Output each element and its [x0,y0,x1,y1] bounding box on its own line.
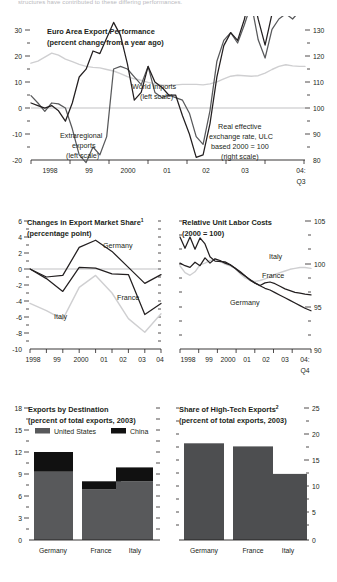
ytick-1: 15 [14,427,22,434]
ytick-8: -10 [12,346,22,353]
xtick-marks [180,349,311,353]
ytick-0: 6 [18,218,22,225]
annotation-germany: Germany [103,241,133,250]
bar-italy [269,474,307,540]
chart-subtitle: (percent of total exports, 2003) [179,416,287,425]
xtick-5: 03 [281,356,289,363]
ytick-right-0: 130 [313,27,325,34]
ytick-marks-right [156,408,160,529]
xtick-5: 03 [241,167,249,174]
annotation-germany: Germany [230,298,260,307]
ytick-left-2: 10 [14,79,22,86]
legend-label-china: China [130,428,148,435]
bar-france-china [82,481,121,489]
series-line-germany [30,240,161,283]
ytick-left-1: 20 [14,53,22,60]
ytick-right-3: 100 [313,105,325,112]
ytick-right-5: 80 [313,157,321,164]
ytick-3: 90 [314,347,322,354]
ytick-marks-left [24,221,29,341]
ytick-1: 100 [314,261,326,268]
ytick-1: 4 [18,234,22,241]
chart-title: Relative Unit Labor Costs [182,218,272,227]
xtick-1: 99 [53,356,61,363]
xtick-6: 04: [300,356,310,363]
ytick-3: 9 [18,471,22,478]
legend-swatch-china [111,428,126,434]
bar-france-united-states [82,489,121,540]
chart-subtitle: (percentage point) [27,229,92,238]
xtick-5: 03 [138,356,146,363]
ytick-5: 0 [312,537,316,544]
xtick-2: 2000 [220,356,235,363]
xtick-6: 04 [156,356,164,363]
xtick-italy: Italy [129,547,142,555]
ytick-5: 3 [18,515,22,522]
series-line-reer [31,53,305,85]
xtick-france: France [242,547,263,554]
xtick-4: 02 [262,356,270,363]
chart-export-market-share: Changes in Export Market Share1 (percent… [0,205,172,390]
ytick-6: 0 [18,537,22,544]
xtick-2: 2000 [120,167,135,174]
xtick-6-sub: Q4 [300,367,309,375]
ytick-left-5: -20 [12,157,22,164]
annotation-extraregional-line3: (left scale) [66,151,99,160]
xtick-germany: Germany [39,547,68,555]
annotation-france: France [117,293,139,302]
legend-label-united-states: United States [54,428,97,435]
xtick-1: 99 [205,356,213,363]
chart-subtitle: (percent of total exports, 2003) [28,416,136,425]
xtick-4: 02 [202,167,210,174]
ytick-1: 20 [312,431,320,438]
ytick-3: 10 [312,483,320,490]
xtick-6-sub: Q3 [296,178,305,186]
ytick-4: 5 [312,509,316,516]
bar-france [233,446,273,540]
annotation-extraregional-line2: exports [72,141,96,150]
bar-germany [184,443,224,540]
ytick-2: 15 [312,457,320,464]
annotation-world-imports-line2: (left scale) [140,92,173,101]
annotation-italy: Italy [269,252,283,261]
xtick-3: 01 [243,356,251,363]
chart-title: Exports by Destination [28,405,109,414]
xtick-3: 01 [163,167,171,174]
ytick-marks-right [305,30,310,147]
ytick-2: 2 [18,250,22,257]
clipped-caption-text: structures have contributed to these dif… [18,0,318,6]
ytick-0: 25 [312,405,320,412]
ytick-4: 6 [18,493,22,500]
ytick-marks-left [25,30,30,147]
annotation-world-imports-line1: World imports [132,82,177,91]
chart-share-high-tech-exports: Share of High-Tech Exports2 (percent of … [168,398,337,582]
chart-exports-by-destination: Exports by Destination (percent of total… [0,398,172,582]
xtick-1: 99 [85,167,93,174]
ytick-4: -2 [16,282,22,289]
xtick-marks [30,349,161,353]
bar-italy-china [116,467,153,481]
xtick-2: 2000 [73,356,88,363]
chart-title: Share of High-Tech Exports2 [179,404,279,414]
ytick-left-3: 0 [18,105,22,112]
ytick-left-4: -10 [12,131,22,138]
ytick-left-0: 30 [14,27,22,34]
chart-subtitle: (2000 = 100) [182,229,225,238]
annotation-reer-line4: (right scale) [221,152,259,161]
ytick-marks-right [158,221,161,341]
legend-swatch-united-states [35,428,50,434]
xtick-0: 1998 [42,167,57,174]
annotation-reer-line3: based 2000 = 100 [211,142,269,151]
bar-germany-china [34,452,73,472]
ytick-6: -6 [16,314,22,321]
series-line-italy [30,275,161,332]
xtick-germany: Germany [190,547,219,555]
annotation-italy: Italy [54,312,68,321]
ytick-0: 18 [14,405,22,412]
ytick-marks-left [24,408,29,529]
xtick-3: 01 [100,356,108,363]
annotation-extraregional-line1: Extraregional [60,131,103,140]
ytick-2: 12 [14,449,22,456]
chart-relative-unit-labor-costs: Relative Unit Labor Costs (2000 = 100) 1… [168,205,337,390]
xtick-4: 02 [119,356,127,363]
